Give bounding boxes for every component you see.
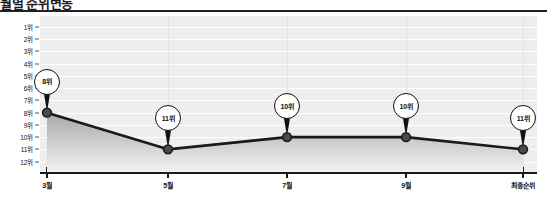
data-point-marker xyxy=(519,146,526,153)
data-point-label: 10위 xyxy=(400,103,413,110)
data-point-marker xyxy=(164,146,171,153)
data-point-callout: 11위 xyxy=(510,105,536,131)
data-point-label: 8위 xyxy=(42,78,51,85)
data-point-label: 11위 xyxy=(517,115,530,122)
data-point-callout: 11위 xyxy=(155,105,181,131)
data-point-callout: 10위 xyxy=(393,93,419,119)
data-point-label: 10위 xyxy=(281,103,294,110)
data-point-marker xyxy=(283,134,290,141)
data-point-callout: 10위 xyxy=(274,93,300,119)
data-point-marker xyxy=(43,109,50,116)
chart-root: 월별 순위변동 1위2위3위4위5위6위7위8위9위10위11위12위 3월5월… xyxy=(0,0,547,199)
series-layer xyxy=(0,0,547,199)
data-point-label: 11위 xyxy=(162,115,175,122)
data-point-callout: 8위 xyxy=(34,69,60,95)
data-point-marker xyxy=(402,134,409,141)
